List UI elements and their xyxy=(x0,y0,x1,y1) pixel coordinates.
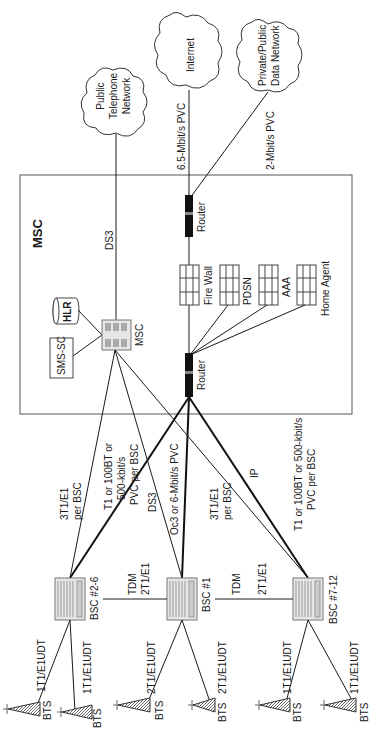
link-hlr-msc xyxy=(78,310,102,335)
msc-switch: MSC xyxy=(102,320,145,350)
msc-enclosure-title: MSC xyxy=(30,219,45,249)
bts-4-label: BTS xyxy=(217,702,228,722)
bts5-link-label: 1T1/E1UDT xyxy=(282,641,293,694)
bts2-link-label: 1T1/E1UDT xyxy=(82,641,93,694)
bsc-7-12-label: BSC #7-12 xyxy=(328,575,339,624)
link-internet-router-label: 6.5-Mbit/s PVC xyxy=(176,103,187,170)
cloud-pstn-line1: Public xyxy=(95,82,106,109)
bts-tower-6: BTS xyxy=(320,698,370,722)
link-pdn-router-label: 2-Mbit/s PVC xyxy=(265,111,276,170)
link-bsc7_12-router-label-2: PVC per BSC xyxy=(306,449,317,510)
bts4-link-label: 2T1/E1UDT xyxy=(217,641,228,694)
router-bottom-label: Router xyxy=(196,359,207,390)
link-bsc1-router-label: Oc3 or 6-Mbit/s PVC xyxy=(169,443,180,535)
link-aaa-router xyxy=(190,305,267,355)
hlr-database: HLR xyxy=(53,298,79,324)
server-aaa: AAA xyxy=(259,265,292,305)
cloud-pdn-line1: Private/Public xyxy=(257,25,268,86)
server-firewall: Fire Wall xyxy=(180,265,214,305)
bts-tower-1: BTS xyxy=(3,700,53,720)
cloud-pstn-line3: Network xyxy=(121,77,132,115)
bts-tower-3: BTS xyxy=(113,698,165,720)
cloud-pdn-line2: Data Network xyxy=(270,24,281,86)
tdm2-label-2: 2T1/E1 xyxy=(257,562,268,595)
hlr-label: HLR xyxy=(62,301,73,322)
cloud-pdn: Private/Public Data Network xyxy=(236,19,302,92)
bsc-1: BSC #1 xyxy=(167,577,212,620)
sms-sc-box: SMS-SC xyxy=(50,336,73,378)
bsc-2-6: BSC #2-6 xyxy=(55,576,100,620)
server-home-agent-label: Home Agent xyxy=(320,261,331,316)
bsc-2-6-label: BSC #2-6 xyxy=(89,576,100,620)
bts-5-label: BTS xyxy=(292,702,303,722)
bts-6-label: BTS xyxy=(359,702,370,722)
link-bsc1-router xyxy=(182,397,189,578)
server-pdsn: PDSN xyxy=(220,265,253,305)
link-smssc-msc xyxy=(73,335,102,356)
bts-1-label: BTS xyxy=(42,700,53,720)
bts1-link-label: 1T1/E1UDT xyxy=(36,639,47,692)
link-bts2 xyxy=(70,620,75,712)
link-bts6 xyxy=(308,620,353,702)
link-pdn-router xyxy=(190,92,268,198)
cloud-pstn-line2: Telephone xyxy=(108,72,119,119)
bts-3-label: BTS xyxy=(154,700,165,720)
tdm1-label-2: 2T1/E1 xyxy=(140,562,151,595)
bts-tower-2: BTS xyxy=(57,705,103,728)
cloud-pstn: Public Telephone Network xyxy=(81,68,147,136)
bts-2-label: BTS xyxy=(92,708,103,728)
msc-switch-label: MSC xyxy=(134,324,145,346)
router-top-label: Router xyxy=(196,201,207,232)
link-bsc7_12-router xyxy=(189,397,308,578)
link-pdsn-router xyxy=(190,305,228,355)
link-bsc2_6-router-label-1: T1 or 100BT or xyxy=(103,442,114,510)
bsc-1-label: BSC #1 xyxy=(201,577,212,612)
link-bsc1-msc-label: DS3 xyxy=(147,492,158,512)
link-pstn-msc-label: DS3 xyxy=(104,230,115,250)
link-bsc2_6-router-label-2: 500-kbit/s xyxy=(116,457,127,500)
link-bsc7_12-msc-label-1: 3T1/E1 xyxy=(209,487,220,520)
tdm1-label-1: TDM xyxy=(127,573,138,595)
router-bottom: Router xyxy=(185,353,207,397)
link-bsc2_6-msc-label-2: per BSC xyxy=(72,482,83,520)
link-bsc7_12-msc-label-2: per BSC xyxy=(222,482,233,520)
link-bts4 xyxy=(182,620,210,702)
bsc-7-12: BSC #7-12 xyxy=(293,575,339,624)
server-home-agent: Home Agent xyxy=(297,261,331,316)
bts-tower-4: BTS xyxy=(188,698,228,722)
bts6-link-label: 1T1/E1UDT xyxy=(349,641,360,694)
sms-sc-label: SMS-SC xyxy=(56,336,67,375)
link-bsc2_6-router-label-3: PVC per BSC xyxy=(129,444,140,505)
link-bsc7_12-router-label-1: T1 or 100BT or 500-kbit/s xyxy=(293,418,304,531)
link-bsc7_12-ip-label: IP xyxy=(249,468,260,478)
router-top: Router xyxy=(185,195,207,237)
cloud-internet: Internet xyxy=(154,12,222,88)
cloud-internet-label: Internet xyxy=(185,38,196,72)
server-pdsn-label: PDSN xyxy=(242,277,253,305)
tdm2-label-1: TDM xyxy=(231,573,242,595)
bts3-link-label: 2T1/E1UDT xyxy=(146,641,157,694)
network-diagram: MSC Public Telephone Network Internet Pr… xyxy=(0,0,379,736)
link-bsc2_6-msc-label-1: 3T1/E1 xyxy=(59,487,70,520)
bts-tower-5: BTS xyxy=(255,698,303,722)
server-firewall-label: Fire Wall xyxy=(203,266,214,305)
link-homeagent-router xyxy=(190,305,305,355)
server-aaa-label: AAA xyxy=(281,277,292,297)
